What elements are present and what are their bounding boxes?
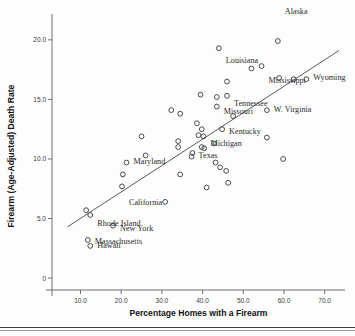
data-point-rhode-island bbox=[88, 213, 93, 218]
point-label: Mississippi bbox=[269, 76, 307, 85]
data-point bbox=[264, 135, 269, 140]
point-label: Michigan bbox=[210, 139, 241, 148]
data-point-tennessee bbox=[225, 93, 230, 98]
data-point bbox=[198, 92, 203, 97]
data-point bbox=[213, 160, 218, 165]
data-point-maryland bbox=[124, 160, 129, 165]
point-label: Kentucky bbox=[229, 127, 262, 136]
data-point bbox=[178, 111, 183, 116]
data-point-alaska bbox=[275, 39, 280, 44]
data-point-california bbox=[120, 184, 125, 189]
data-point-massachusetts bbox=[85, 238, 90, 243]
data-point bbox=[224, 168, 229, 173]
y-axis-title: Firearm (Age-Adjusted) Death Rate bbox=[6, 84, 16, 227]
point-label: California bbox=[129, 198, 163, 207]
data-point-kentucky bbox=[220, 127, 225, 132]
x-axis-title: Percentage Homes with a Firearm bbox=[129, 308, 267, 318]
data-point bbox=[196, 133, 201, 138]
x-tick-label: 40.0 bbox=[196, 297, 209, 304]
y-tick-label: 0 bbox=[42, 275, 46, 282]
data-point bbox=[169, 108, 174, 113]
data-point bbox=[163, 199, 168, 204]
y-tick-label: 15.0 bbox=[33, 96, 46, 103]
data-point bbox=[218, 165, 223, 170]
data-point-hawaii bbox=[88, 244, 93, 249]
data-point bbox=[176, 145, 181, 150]
data-point-w-virginia bbox=[264, 108, 269, 113]
point-label: Maryland bbox=[133, 157, 165, 166]
data-point bbox=[214, 95, 219, 100]
data-point bbox=[176, 139, 181, 144]
y-tick-label: 20.0 bbox=[33, 36, 46, 43]
x-tick-label: 20.0 bbox=[115, 297, 128, 304]
x-tick-label: 70.0 bbox=[318, 297, 331, 304]
data-point bbox=[281, 157, 286, 162]
data-point-mississippi bbox=[259, 64, 264, 69]
y-tick-label: 5.0 bbox=[37, 215, 46, 222]
point-label: New York bbox=[120, 224, 154, 233]
data-point-louisiana bbox=[216, 46, 221, 51]
data-point bbox=[139, 134, 144, 139]
point-label: W. Virginia bbox=[274, 105, 312, 114]
data-point bbox=[204, 185, 209, 190]
point-label: Alaska bbox=[285, 7, 308, 16]
data-point-missouri bbox=[214, 104, 219, 109]
point-label: Hawaii bbox=[97, 241, 121, 250]
footer-divider-thin bbox=[0, 330, 355, 331]
point-label: Texas bbox=[199, 151, 218, 160]
data-point bbox=[84, 208, 89, 213]
data-point bbox=[199, 127, 204, 132]
point-label: Wyoming bbox=[313, 73, 345, 82]
axes-group bbox=[46, 14, 345, 296]
x-tick-label: 50.0 bbox=[237, 297, 250, 304]
scatter-plot-canvas: 10.020.030.040.050.060.070.005.010.015.0… bbox=[0, 0, 355, 336]
y-tick-label: 10.0 bbox=[33, 155, 46, 162]
point-label: Missouri bbox=[224, 107, 254, 116]
x-tick-label: 60.0 bbox=[278, 297, 291, 304]
data-point bbox=[249, 66, 254, 71]
firearm-death-rate-scatter-chart: 10.020.030.040.050.060.070.005.010.015.0… bbox=[0, 0, 355, 336]
point-label: Louisiana bbox=[226, 56, 259, 65]
x-tick-label: 30.0 bbox=[156, 297, 169, 304]
data-point bbox=[178, 172, 183, 177]
x-tick-label: 10.0 bbox=[74, 297, 87, 304]
data-point bbox=[194, 121, 199, 126]
data-point bbox=[226, 180, 231, 185]
data-point bbox=[225, 79, 230, 84]
footer-divider-thick bbox=[0, 327, 355, 328]
data-point bbox=[120, 172, 125, 177]
